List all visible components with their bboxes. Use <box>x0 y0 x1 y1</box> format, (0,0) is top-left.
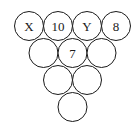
circle-label: 8 <box>113 19 120 34</box>
circle-shape <box>44 66 73 95</box>
circle-label: 10 <box>52 19 65 34</box>
circle-cell-r1c4: 8 <box>102 12 131 41</box>
circle-shape <box>73 66 102 95</box>
circle-cell-r1c3: Y <box>73 12 102 41</box>
circle-cell-r2c3 <box>87 39 116 68</box>
circle-shape <box>29 39 58 68</box>
circle-cell-r4c1 <box>58 93 87 122</box>
circle-cell-r2c1 <box>29 39 58 68</box>
circle-label: X <box>24 19 34 34</box>
circle-shape <box>87 39 116 68</box>
circle-cell-r3c2 <box>73 66 102 95</box>
circle-triangle-diagram: X10Y87 <box>0 0 135 130</box>
circle-cell-r2c2: 7 <box>58 39 87 68</box>
circle-shape <box>58 93 87 122</box>
circle-cell-r3c1 <box>44 66 73 95</box>
circle-label: Y <box>82 19 92 34</box>
circle-cell-r1c1: X <box>15 12 44 41</box>
circle-cell-r1c2: 10 <box>44 12 73 41</box>
circle-label: 7 <box>69 46 76 61</box>
